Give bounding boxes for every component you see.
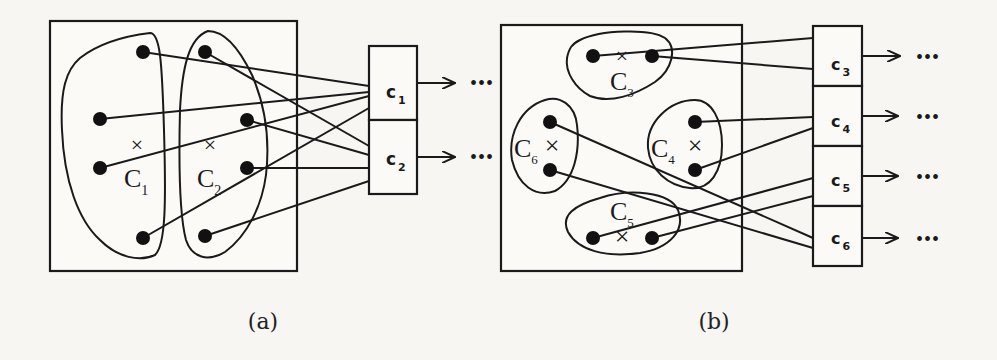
data-point: [688, 163, 702, 177]
centroid-marker-c6: ×: [545, 131, 560, 160]
data-point: [240, 161, 254, 175]
data-point: [543, 115, 557, 129]
data-point: [688, 115, 702, 129]
ellipsis-c5: •••: [916, 166, 940, 188]
centroid-marker-c1: ×: [131, 132, 143, 157]
data-point: [586, 231, 600, 245]
data-point: [136, 45, 150, 59]
ellipsis-c6: •••: [916, 228, 940, 250]
ellipsis-c1: •••: [470, 72, 494, 94]
data-point: [93, 112, 107, 126]
centroid-marker-c3: ×: [616, 43, 628, 68]
ellipsis-c4: •••: [916, 106, 940, 128]
data-point: [198, 45, 212, 59]
panel-b: × × × × C3 C4 C5 C6 c3 c4 c5 c6 ••• ••• …: [501, 25, 940, 334]
centroid-marker-c4: ×: [688, 131, 703, 160]
data-point: [645, 49, 659, 63]
figure-canvas: × × C1 C2 c1 c2 ••• ••• (a): [0, 0, 997, 360]
data-point: [198, 229, 212, 243]
data-point: [645, 231, 659, 245]
panel-a-frame: [50, 21, 297, 271]
caption-a: (a): [248, 309, 278, 334]
data-point: [93, 161, 107, 175]
ellipsis-c2: •••: [470, 146, 494, 168]
ellipsis-c3: •••: [916, 46, 940, 68]
panel-a: × × C1 C2 c1 c2 ••• ••• (a): [50, 21, 494, 334]
data-point: [543, 163, 557, 177]
data-point: [586, 49, 600, 63]
caption-b: (b): [698, 309, 729, 334]
data-point: [240, 113, 254, 127]
centroid-marker-c2: ×: [204, 132, 216, 157]
data-point: [136, 231, 150, 245]
